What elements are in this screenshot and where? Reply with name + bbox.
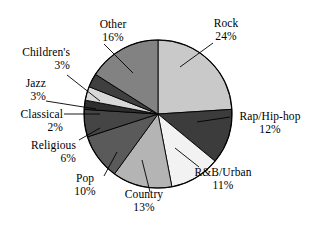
slice-label-rnb-value: 11% [185,179,261,192]
slice-label-childrens-value: 3% [0,59,70,72]
slice-label-jazz: Jazz 3% [0,77,46,102]
slice-label-classical: Classical 2% [0,108,63,133]
slice-label-rnb-name: R&B/Urban [185,166,261,179]
slice-label-classical-value: 2% [0,121,63,134]
slice-label-country-value: 13% [114,201,174,214]
slice-label-rnb: R&B/Urban 11% [185,166,261,191]
slice-label-childrens: Children's 3% [0,46,70,71]
slice-label-jazz-value: 3% [0,90,46,103]
slice-label-rock-value: 24% [200,30,252,43]
slice-label-religious: Religious 6% [0,139,76,164]
slice-label-rock: Rock 24% [200,17,252,42]
slice-label-pop-value: 10% [66,185,104,198]
slice-label-pop-name: Pop [66,172,104,185]
slice-label-other-value: 16% [84,31,142,44]
slice-label-religious-name: Religious [0,139,76,152]
slice-label-other-name: Other [84,18,142,31]
pie-chart-figure: Other 16% Rock 24% Children's 3% Jazz 3%… [0,0,312,229]
slice-label-rap: Rap/Hip-hop 12% [230,110,310,135]
slice-label-classical-name: Classical [0,108,63,121]
slice-label-other: Other 16% [84,18,142,43]
slice-label-rap-name: Rap/Hip-hop [230,110,310,123]
slice-label-childrens-name: Children's [0,46,70,59]
slice-label-jazz-name: Jazz [0,77,46,90]
slice-label-rap-value: 12% [230,123,310,136]
slice-label-rock-name: Rock [200,17,252,30]
slice-label-country: Country 13% [114,188,174,213]
slice-label-pop: Pop 10% [66,172,104,197]
pie-slice-rock [158,40,232,114]
slice-label-country-name: Country [114,188,174,201]
slice-label-religious-value: 6% [0,152,76,165]
